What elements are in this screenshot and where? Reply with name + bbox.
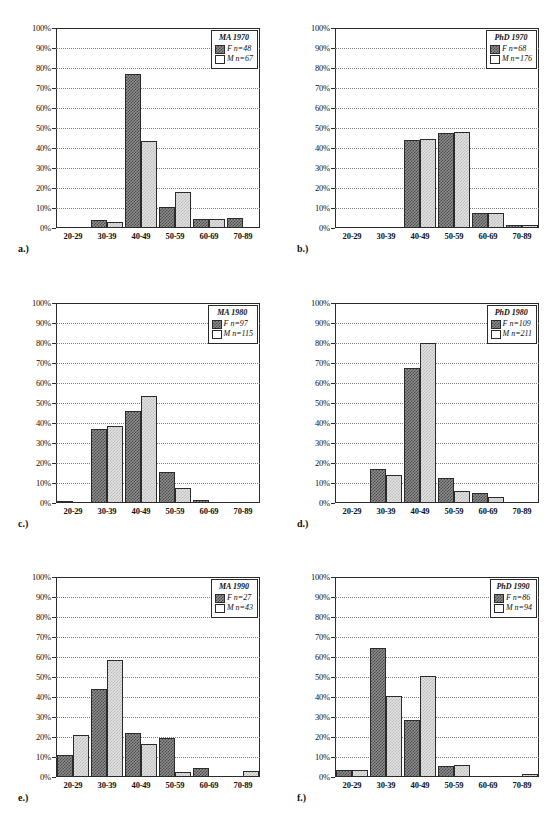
bar-group (90, 577, 124, 777)
bar-female (404, 140, 420, 228)
bar-male (488, 497, 504, 503)
bar-female (472, 493, 488, 503)
chart-panel-e: 100%90%80%70%60%50%40%30%20%10%0%MA 1990… (0, 549, 279, 824)
bar-male (107, 222, 123, 228)
chart-panel-a: 100%90%80%70%60%50%40%30%20%10%0%MA 1970… (0, 0, 279, 275)
x-axis-tick-label: 40-49 (403, 506, 437, 516)
legend-title: PhD 1970 (490, 33, 532, 44)
bar-female (370, 469, 386, 503)
plot-area: 100%90%80%70%60%50%40%30%20%10%0%PhD 199… (335, 577, 539, 777)
bar-male (209, 219, 225, 228)
y-axis-tick-label: 40% (36, 418, 51, 428)
x-axis-labels: 20-2930-3940-4950-5960-6970-89 (335, 506, 539, 516)
legend-title: MA 1980 (212, 308, 253, 319)
bar-group (335, 303, 369, 503)
legend-entry-label: F n=68 (502, 44, 526, 54)
x-axis-tick-label: 20-29 (335, 780, 369, 790)
legend-entry: F n=109 (491, 319, 532, 329)
bar-group (437, 577, 471, 777)
y-axis-tick-mark (331, 228, 335, 229)
legend-entry-label: M n=211 (503, 329, 532, 339)
x-axis-tick-label: 60-69 (471, 780, 505, 790)
bar-group (158, 303, 192, 503)
y-axis-tick-label: 90% (36, 592, 51, 602)
x-axis-labels: 20-2930-3940-4950-5960-6970-89 (335, 780, 539, 790)
x-axis-tick-label: 60-69 (471, 231, 505, 241)
legend-entry: M n=94 (494, 603, 532, 613)
plot-area: 100%90%80%70%60%50%40%30%20%10%0%PhD 198… (335, 303, 539, 503)
panel-caption: f.) (297, 792, 306, 803)
legend-entry: M n=176 (490, 54, 532, 64)
bar-female (472, 213, 488, 228)
bar-group (158, 28, 192, 228)
y-axis-tick-label: 60% (36, 652, 51, 662)
bar-male (454, 765, 470, 777)
y-axis-tick-label: 20% (315, 458, 330, 468)
y-axis-tick-label: 70% (36, 83, 51, 93)
chart-panel-c: 100%90%80%70%60%50%40%30%20%10%0%MA 1980… (0, 275, 279, 550)
x-axis-tick-label: 50-59 (158, 780, 192, 790)
bar-male (522, 774, 538, 777)
x-axis-tick-label: 30-39 (90, 506, 124, 516)
legend-entry: F n=86 (494, 593, 532, 603)
plot-area: 100%90%80%70%60%50%40%30%20%10%0%PhD 197… (335, 28, 539, 228)
bar-male (175, 772, 191, 777)
bar-male (386, 696, 402, 777)
chart-legend: MA 1970F n=48M n=67 (211, 30, 258, 69)
legend-entry: M n=211 (491, 329, 532, 339)
x-axis-tick-label: 50-59 (437, 780, 471, 790)
x-axis-tick-label: 40-49 (403, 231, 437, 241)
bar-group (369, 577, 403, 777)
y-axis-tick-label: 20% (315, 183, 330, 193)
legend-entry-label: F n=109 (503, 319, 531, 329)
bar-female (336, 770, 352, 777)
bar-group (56, 28, 90, 228)
plot-area: 100%90%80%70%60%50%40%30%20%10%0%MA 1980… (56, 303, 260, 503)
bar-female (125, 74, 141, 228)
y-axis-tick-label: 70% (36, 358, 51, 368)
panel-caption: b.) (297, 243, 308, 254)
bar-male (386, 475, 402, 503)
bar-group (124, 303, 158, 503)
bar-group (335, 577, 369, 777)
x-axis-tick-label: 70-89 (226, 780, 260, 790)
bar-male (107, 660, 123, 777)
bar-group (437, 303, 471, 503)
bar-male (73, 735, 89, 777)
bar-male (352, 770, 368, 777)
y-axis-tick-label: 80% (36, 63, 51, 73)
legend-swatch-female-icon (494, 594, 504, 603)
y-axis-tick-label: 0% (40, 772, 51, 782)
legend-entry-label: F n=97 (224, 319, 248, 329)
x-axis-tick-label: 40-49 (124, 231, 158, 241)
bar-female (125, 411, 141, 503)
bar-group (437, 28, 471, 228)
x-axis-tick-label: 50-59 (158, 506, 192, 516)
bar-female (91, 220, 107, 228)
bar-male (420, 343, 436, 503)
x-axis-tick-label: 70-89 (226, 506, 260, 516)
bar-female (159, 738, 175, 777)
y-axis-tick-label: 50% (315, 672, 330, 682)
y-axis-tick-label: 80% (315, 612, 330, 622)
legend-entry-label: F n=48 (227, 44, 251, 54)
legend-swatch-female-icon (490, 45, 500, 54)
bar-female (370, 648, 386, 777)
y-axis-tick-label: 70% (315, 83, 330, 93)
legend-entry-label: M n=43 (227, 603, 253, 613)
y-axis-tick-mark (52, 777, 56, 778)
x-axis-tick-label: 20-29 (56, 231, 90, 241)
legend-entry: F n=97 (212, 319, 253, 329)
legend-title: PhD 1990 (494, 582, 532, 593)
y-axis-tick-label: 40% (36, 143, 51, 153)
legend-swatch-female-icon (212, 320, 222, 329)
x-axis-tick-label: 70-89 (226, 231, 260, 241)
chart-panel-d: 100%90%80%70%60%50%40%30%20%10%0%PhD 198… (279, 275, 558, 550)
y-axis-tick-label: 100% (311, 23, 330, 33)
x-axis-tick-label: 30-39 (369, 780, 403, 790)
x-axis-tick-label: 30-39 (369, 506, 403, 516)
legend-swatch-male-icon (212, 330, 222, 339)
y-axis-tick-label: 10% (315, 752, 330, 762)
y-axis-tick-label: 30% (315, 163, 330, 173)
legend-entry: M n=67 (215, 54, 253, 64)
